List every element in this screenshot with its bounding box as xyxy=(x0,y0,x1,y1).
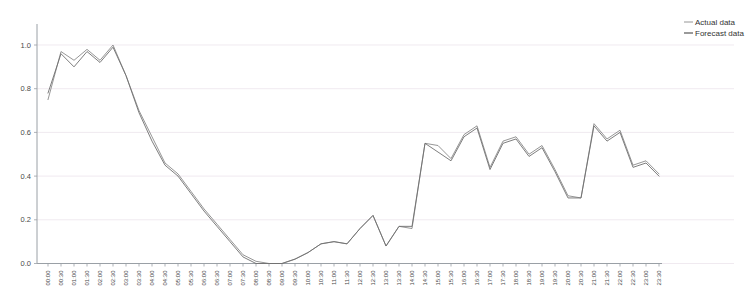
x-tick-label: 14:00 xyxy=(409,270,415,286)
x-tick-label: 09:30 xyxy=(292,270,298,286)
x-tick-label: 03:30 xyxy=(136,270,142,286)
x-tick-label: 03:00 xyxy=(123,270,129,286)
x-tick-label: 15:30 xyxy=(448,270,454,286)
x-tick-label: 12:00 xyxy=(357,270,363,286)
x-tick-label: 04:30 xyxy=(162,270,168,286)
x-tick-label: 22:30 xyxy=(630,270,636,286)
y-tick-label: 0.2 xyxy=(21,215,31,224)
x-tick-label: 00:30 xyxy=(58,270,64,286)
legend-label: Actual data xyxy=(695,18,736,27)
x-tick-label: 12:30 xyxy=(370,270,376,286)
x-tick-label: 05:30 xyxy=(188,270,194,286)
x-tick-label: 19:30 xyxy=(552,270,558,286)
chart-legend: Actual dataForecast data xyxy=(684,18,744,38)
x-tick-label: 10:30 xyxy=(318,270,324,286)
x-tick-label: 17:00 xyxy=(487,270,493,286)
x-tick-label: 02:30 xyxy=(110,270,116,286)
x-tick-label: 16:00 xyxy=(461,270,467,286)
y-tick-label: 0.0 xyxy=(21,259,31,268)
chart-container: 0.00.20.40.60.81.0 00:0000:3001:0001:300… xyxy=(0,0,752,304)
x-tick-label: 16:30 xyxy=(474,270,480,286)
y-tick-label: 0.8 xyxy=(21,84,31,93)
x-tick-label: 19:00 xyxy=(539,270,545,286)
x-axis: 00:0000:3001:0001:3002:0002:3003:0003:30… xyxy=(37,264,662,286)
x-tick-label: 01:30 xyxy=(84,270,90,286)
x-tick-label: 11:30 xyxy=(344,270,350,285)
x-tick-label: 06:30 xyxy=(214,270,220,286)
x-tick-label: 11:00 xyxy=(331,270,337,285)
y-tick-label: 1.0 xyxy=(21,41,31,50)
x-tick-label: 23:00 xyxy=(643,270,649,286)
line-chart: 0.00.20.40.60.81.0 00:0000:3001:0001:300… xyxy=(0,0,752,304)
x-tick-label: 20:00 xyxy=(565,270,571,286)
x-tick-label: 08:30 xyxy=(266,270,272,286)
x-tick-label: 07:00 xyxy=(227,270,233,286)
y-tick-label: 0.4 xyxy=(21,172,31,181)
x-tick-label: 04:00 xyxy=(149,270,155,286)
y-axis: 0.00.20.40.60.81.0 xyxy=(21,24,37,268)
x-tick-label: 21:30 xyxy=(604,270,610,286)
x-tick-label: 20:30 xyxy=(578,270,584,286)
x-tick-label: 18:00 xyxy=(513,270,519,286)
x-tick-label: 21:00 xyxy=(591,270,597,286)
y-tick-label: 0.6 xyxy=(21,128,31,137)
x-tick-label: 10:00 xyxy=(305,270,311,286)
x-tick-label: 23:30 xyxy=(656,270,662,286)
x-tick-label: 17:30 xyxy=(500,270,506,286)
x-tick-label: 06:00 xyxy=(201,270,207,286)
legend-label: Forecast data xyxy=(695,29,744,38)
x-tick-label: 01:00 xyxy=(71,270,77,286)
x-tick-label: 09:00 xyxy=(279,270,285,286)
x-tick-label: 13:30 xyxy=(396,270,402,286)
gridlines xyxy=(37,45,734,264)
x-tick-label: 00:00 xyxy=(45,270,51,286)
series-line-actual xyxy=(48,45,659,264)
x-tick-label: 08:00 xyxy=(253,270,259,286)
x-tick-label: 13:00 xyxy=(383,270,389,286)
x-tick-label: 15:00 xyxy=(435,270,441,286)
x-tick-label: 22:00 xyxy=(617,270,623,286)
x-tick-label: 07:30 xyxy=(240,270,246,286)
x-tick-label: 05:00 xyxy=(175,270,181,286)
x-tick-label: 14:30 xyxy=(422,270,428,286)
x-tick-label: 02:00 xyxy=(97,270,103,286)
series-line-forecast xyxy=(48,47,659,263)
x-tick-label: 18:30 xyxy=(526,270,532,286)
series-lines xyxy=(48,45,659,264)
